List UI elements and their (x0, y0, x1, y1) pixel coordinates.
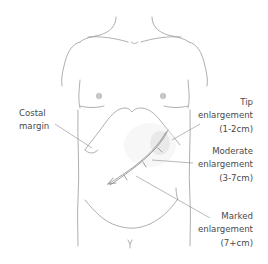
arrowhead (108, 178, 116, 184)
shoulder-left (62, 42, 80, 86)
abdomen-right-mark (176, 188, 178, 200)
tick-marked (124, 175, 127, 180)
nipple-right (160, 93, 166, 99)
leader-costal (55, 124, 92, 148)
chest-side-right (188, 80, 189, 108)
spleen-region (124, 123, 176, 167)
label-marked-enlargement: Marked enlargement (7+cm) (198, 210, 253, 250)
shoulder-right (189, 42, 207, 86)
chest-side-left (79, 80, 80, 108)
pectoral-left (80, 106, 104, 108)
groin-mark (128, 240, 132, 248)
label-tip-enlargement: Tip enlargement (1-2cm) (198, 96, 253, 136)
sternal-notch (131, 42, 138, 44)
nipple-left (96, 93, 102, 99)
costal-margin-left-tip (85, 150, 98, 153)
leader-tip (172, 124, 200, 140)
clavicle-right (141, 37, 181, 42)
label-costal-margin: Costal margin (19, 107, 49, 134)
abdomen-curve (85, 200, 177, 228)
torso-side-left (78, 110, 79, 246)
pectoral-right (164, 106, 188, 108)
clavicle-left (88, 37, 128, 42)
label-moderate-enlargement: Moderate enlargement (3-7cm) (198, 145, 253, 185)
torso-side-right (189, 110, 190, 246)
